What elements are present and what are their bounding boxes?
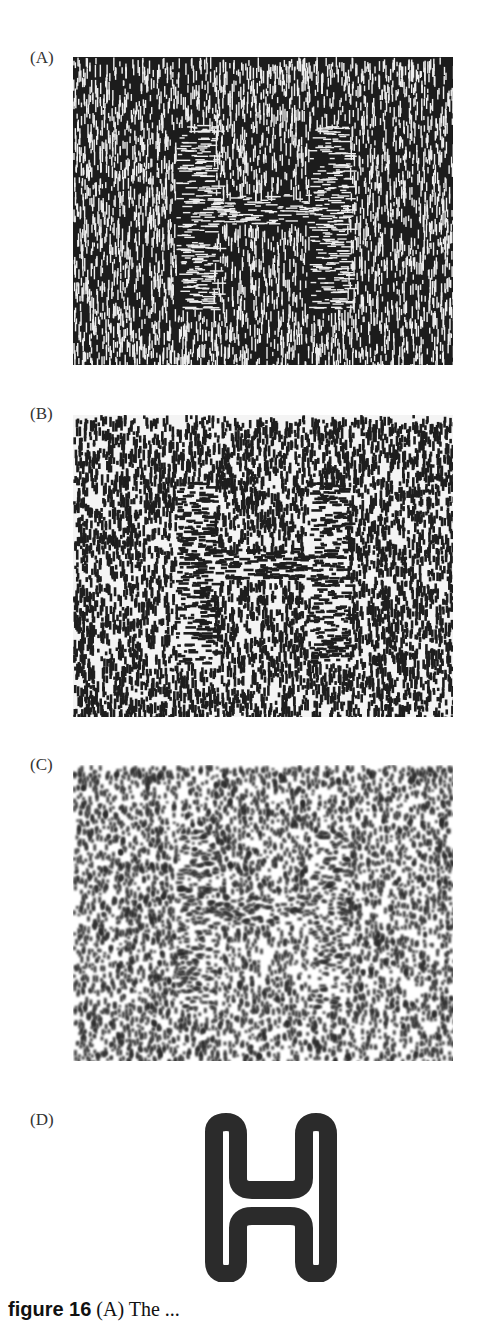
panel-label-b: (B) (30, 404, 53, 424)
caption-text: (A) The ... (91, 1298, 180, 1320)
panel-label-d: (D) (30, 1110, 54, 1130)
caption-figure-number: figure 16 (8, 1298, 91, 1320)
panel-b-texture (73, 415, 453, 717)
panel-label-c: (C) (30, 755, 53, 775)
letter-h-outline (178, 1112, 362, 1282)
figure-caption: figure 16 (A) The ... (8, 1298, 478, 1321)
panel-label-a: (A) (30, 48, 54, 68)
panel-c-texture (73, 765, 453, 1061)
panel-a-texture (73, 57, 453, 365)
